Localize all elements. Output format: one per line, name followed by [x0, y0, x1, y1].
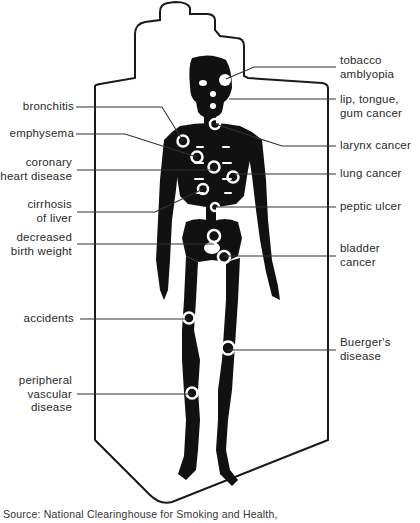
label-peptic-ulcer: peptic ulcer — [340, 200, 401, 214]
label-line: bladder — [340, 242, 380, 256]
label-line: peripheral — [19, 374, 72, 388]
label-accidents: accidents — [24, 312, 74, 326]
label-line: cirrhosis — [27, 198, 72, 212]
label-line: of liver — [27, 212, 72, 226]
label-line: gum cancer — [340, 107, 402, 121]
label-line: amblyopia — [340, 68, 394, 82]
label-line: accidents — [24, 312, 74, 326]
label-line: decreased — [11, 231, 72, 245]
label-line: heart disease — [0, 170, 72, 184]
label-line: tobacco — [340, 54, 394, 68]
label-line: disease — [340, 350, 391, 364]
label-cirrhosis-of-liver: cirrhosis of liver — [27, 198, 72, 225]
label-line: coronary — [0, 156, 72, 170]
label-line: birth weight — [11, 245, 72, 259]
label-decreased-birth-weight: decreased birth weight — [11, 231, 72, 258]
label-line: bronchitis — [23, 100, 74, 114]
label-line: disease — [19, 401, 72, 415]
source-caption: Source: National Clearinghouse for Smoki… — [3, 508, 278, 520]
label-lung-cancer: lung cancer — [340, 167, 402, 181]
label-line: larynx cancer — [340, 139, 411, 153]
label-coronary-heart-disease: coronary heart disease — [0, 156, 72, 183]
label-peripheral-vascular-disease: peripheral vascular disease — [19, 374, 72, 415]
label-line: vascular — [19, 388, 72, 402]
label-bladder-cancer: bladder cancer — [340, 242, 380, 269]
label-bronchitis: bronchitis — [23, 100, 74, 114]
label-line: Buerger's — [340, 336, 391, 350]
label-lip-tongue-gum-cancer: lip, tongue, gum cancer — [340, 93, 402, 120]
label-buergers-disease: Buerger's disease — [340, 336, 391, 363]
label-line: cancer — [340, 256, 380, 270]
label-line: emphysema — [10, 127, 74, 141]
label-tobacco-amblyopia: tobacco amblyopia — [340, 54, 394, 81]
label-emphysema: emphysema — [10, 127, 74, 141]
label-line: lung cancer — [340, 167, 402, 181]
label-line: peptic ulcer — [340, 200, 401, 214]
label-larynx-cancer: larynx cancer — [340, 139, 411, 153]
label-line: lip, tongue, — [340, 93, 402, 107]
